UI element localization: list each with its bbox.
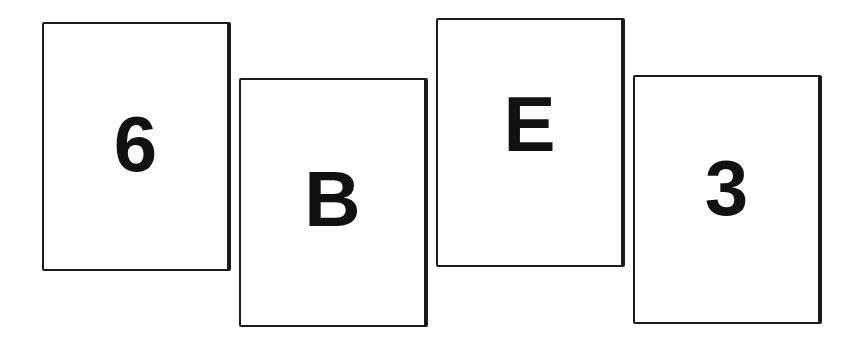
card-symbol: 6 — [44, 105, 227, 183]
card-e[interactable]: E — [436, 18, 625, 267]
card-symbol: B — [241, 160, 424, 238]
card-symbol: 3 — [635, 149, 818, 227]
card-6[interactable]: 6 — [42, 22, 231, 271]
card-b[interactable]: B — [239, 78, 428, 327]
card-3[interactable]: 3 — [633, 75, 822, 324]
card-symbol: E — [438, 85, 621, 163]
